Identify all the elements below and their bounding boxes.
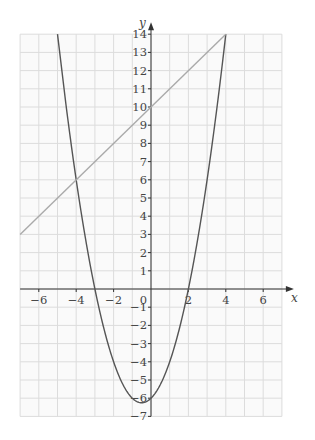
svg-text:1: 1 — [140, 264, 147, 278]
svg-text:−3: −3 — [130, 337, 147, 351]
svg-text:−7: −7 — [130, 409, 147, 423]
x-axis-label: x — [291, 291, 298, 305]
svg-text:−4: −4 — [130, 355, 147, 369]
y-axis-label: y — [138, 16, 146, 30]
svg-text:7: 7 — [140, 155, 147, 169]
svg-text:5: 5 — [140, 191, 147, 205]
svg-text:8: 8 — [140, 136, 147, 150]
svg-text:2: 2 — [140, 246, 147, 260]
svg-text:6: 6 — [140, 173, 147, 187]
svg-text:−2: −2 — [105, 293, 122, 307]
svg-text:−4: −4 — [68, 293, 85, 307]
svg-text:10: 10 — [132, 100, 147, 114]
svg-text:11: 11 — [132, 82, 147, 96]
svg-text:−2: −2 — [130, 318, 147, 332]
svg-text:6: 6 — [260, 293, 267, 307]
svg-text:12: 12 — [132, 64, 147, 78]
svg-text:−6: −6 — [30, 293, 47, 307]
svg-text:4: 4 — [222, 293, 229, 307]
svg-text:3: 3 — [140, 227, 147, 241]
svg-text:0: 0 — [140, 293, 147, 307]
svg-text:4: 4 — [140, 209, 147, 223]
svg-text:13: 13 — [132, 45, 147, 59]
chart: −6−4−22461413121110987654321−1−2−3−4−5−6… — [0, 0, 315, 440]
svg-text:9: 9 — [140, 118, 147, 132]
svg-text:−5: −5 — [130, 373, 147, 387]
